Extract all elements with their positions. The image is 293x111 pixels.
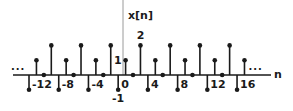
stem-marker — [175, 88, 180, 93]
x-tick-label: 16 — [240, 78, 256, 91]
x-tick-label: -4 — [91, 78, 104, 91]
stem-marker — [49, 43, 54, 48]
x-tick-label: 0 — [121, 78, 129, 91]
stem-marker — [220, 73, 225, 78]
stem-marker — [190, 73, 195, 78]
stem-marker — [123, 58, 128, 63]
stem-marker — [160, 73, 165, 78]
stem-marker — [42, 73, 47, 78]
stem-marker — [235, 88, 240, 93]
stem-marker — [108, 43, 113, 48]
stem-marker — [94, 58, 99, 63]
stem-plot-svg: x[n] n ... ... -12-8-4048121612-1 — [0, 0, 293, 111]
continuation-left: ... — [11, 61, 25, 72]
stem-marker — [198, 43, 203, 48]
x-tick-label: 12 — [210, 78, 225, 91]
stem-marker — [79, 43, 84, 48]
x-tick-label: -12 — [32, 78, 52, 91]
stem-marker — [153, 58, 158, 63]
stem-marker — [56, 88, 61, 93]
stem-marker — [242, 58, 247, 63]
stem-marker — [131, 73, 136, 78]
stem-marker — [86, 88, 91, 93]
stem-marker — [71, 73, 76, 78]
value-label: 2 — [137, 29, 145, 42]
x-axis-label: n — [274, 68, 282, 81]
stem-marker — [168, 43, 173, 48]
y-axis-label: x[n] — [128, 9, 153, 22]
stem-marker — [183, 58, 188, 63]
x-tick-label: 4 — [151, 78, 159, 91]
stem-marker — [138, 43, 143, 48]
stem-marker — [34, 58, 39, 63]
x-tick-label: -8 — [62, 78, 74, 91]
continuation-right: ... — [248, 61, 262, 72]
stem-marker — [64, 58, 69, 63]
stem-plot: x[n] n ... ... -12-8-4048121612-1 — [0, 0, 293, 111]
stem-marker — [212, 58, 217, 63]
x-tick-label: 8 — [181, 78, 189, 91]
stem-marker — [227, 43, 232, 48]
value-label: 1 — [114, 54, 122, 67]
stem-marker — [27, 88, 32, 93]
stem-marker — [146, 88, 151, 93]
value-label: -1 — [112, 92, 124, 105]
stem-marker — [101, 73, 106, 78]
stem-marker — [205, 88, 210, 93]
